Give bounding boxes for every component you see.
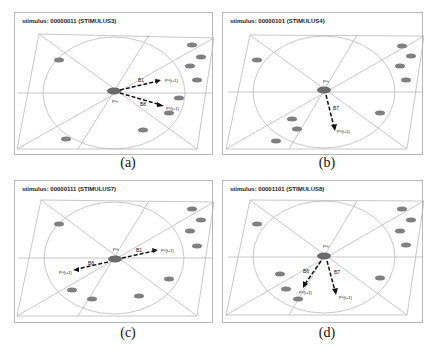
robot-icons <box>54 207 206 302</box>
arrow-label: B8 <box>88 260 94 266</box>
robot-icon <box>252 58 262 63</box>
center-label: P^t <box>323 79 330 84</box>
panel-a: B1 B8 P^{t+1} P^{t+1} P^t stimulus: 0000… <box>14 12 213 155</box>
robot-icon <box>174 96 184 101</box>
robot-icon-center <box>317 87 331 94</box>
movement-arrows <box>326 95 334 127</box>
panel-title: stimulus: 00000011 (STIMULUS3) <box>22 18 116 24</box>
robot-icon <box>287 117 297 122</box>
robot-icon <box>281 287 291 292</box>
robot-icon <box>138 128 148 133</box>
robot-icon-center <box>107 88 121 95</box>
arrow-label: B7 <box>334 269 340 275</box>
robot-icon <box>395 229 405 234</box>
caption-d: (d) <box>297 325 357 341</box>
robot-icon <box>192 244 202 249</box>
arena-diagram: B1 B8 P^{t+1} P^{t+1} P^t <box>15 181 214 324</box>
robot-icon <box>275 272 285 277</box>
robot-icon <box>185 64 195 69</box>
robot-icon <box>61 137 71 142</box>
arrow-label: B7 <box>333 105 339 111</box>
panel-c: B1 B8 P^{t+1} P^{t+1} P^t stimulus: 0000… <box>14 180 213 323</box>
robot-icon <box>87 297 97 302</box>
robot-icon <box>401 78 411 83</box>
robot-icon <box>401 243 411 248</box>
arena-diagram: B7 P^{t+1} P^t <box>223 13 424 156</box>
panel-b: B7 P^{t+1} P^t stimulus: 00000101 (STIMU… <box>222 12 423 155</box>
robot-icon <box>196 218 206 223</box>
target-label: P^{t+1} <box>339 295 353 300</box>
target-label: P^{t+1} <box>166 106 180 111</box>
robot-icon <box>187 207 197 212</box>
caption-b: (b) <box>297 155 357 171</box>
arena-diagram: B1 B8 P^{t+1} P^{t+1} P^t <box>15 13 214 156</box>
robot-icon <box>397 44 407 49</box>
target-label: P^{t+1} <box>337 129 351 134</box>
robot-icon-center <box>317 253 331 260</box>
panel-d: B6 B7 P^{t+1} P^{t+1} P^t stimulus: 0000… <box>222 180 423 323</box>
robot-icons <box>54 43 206 142</box>
robot-icon <box>406 54 416 59</box>
center-label: P^t <box>323 244 330 249</box>
robot-icon <box>134 294 144 299</box>
target-label: P^{t+1} <box>161 248 175 253</box>
caption-a: (a) <box>98 155 158 171</box>
robot-icon <box>375 276 385 281</box>
robot-icon <box>292 127 302 132</box>
panel-title: stimulus: 00001101 (STIMULUS8) <box>230 186 324 192</box>
arrow-label: B6 <box>303 268 309 274</box>
arena-diagram: B6 B7 P^{t+1} P^{t+1} P^t <box>223 181 424 324</box>
robot-icon <box>293 297 303 302</box>
panel-title: stimulus: 00000101 (STIMULUS4) <box>230 18 325 24</box>
robot-icon <box>375 111 385 116</box>
arrow-label: B1 <box>138 77 144 83</box>
arrow-label: B1 <box>136 247 142 253</box>
center-label: P^t <box>112 99 119 104</box>
robot-icon <box>395 64 405 69</box>
center-label: P^t <box>113 247 120 252</box>
caption-c: (c) <box>98 325 158 341</box>
robot-icon <box>185 229 195 234</box>
robot-icon <box>164 277 174 282</box>
movement-arrows <box>305 261 335 291</box>
robot-icon <box>271 139 281 144</box>
robot-icon <box>54 222 64 227</box>
robot-icon <box>397 207 407 212</box>
robot-icon <box>192 78 202 83</box>
robot-icon <box>187 43 197 48</box>
robot-icon <box>164 111 174 116</box>
panel-title: stimulus: 00000111 (STIMULUS7) <box>22 186 116 192</box>
robot-icon <box>252 222 262 227</box>
target-label: P^{t+1} <box>165 78 179 83</box>
robot-icon <box>406 218 416 223</box>
robot-icon <box>54 58 64 63</box>
robot-icon <box>67 288 77 293</box>
arrow-label: B8 <box>140 101 146 107</box>
robot-icon-center <box>108 256 122 263</box>
robot-icon <box>196 55 206 60</box>
target-label: P^{t+1} <box>59 270 73 275</box>
target-label: P^{t+1} <box>299 290 313 295</box>
